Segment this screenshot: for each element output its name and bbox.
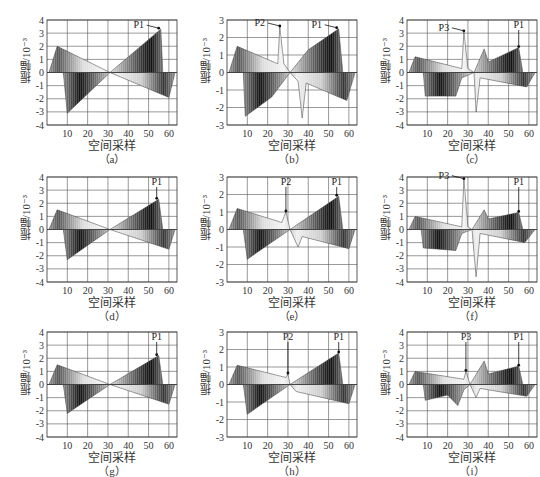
y-tick-label: -2 [36, 250, 44, 261]
y-tick-label: -2 [216, 259, 224, 270]
annotation-p3: P3 [461, 331, 472, 372]
y-tick-label: 0 [399, 224, 404, 235]
y-tick-label: 0 [39, 379, 44, 390]
panel-caption: （h） [222, 462, 362, 477]
y-tick-label: 3 [399, 340, 404, 351]
y-tick-label: -4 [396, 432, 404, 443]
y-tick-label: 3 [39, 185, 44, 196]
panel-caption: （g） [42, 462, 182, 477]
annotation-p1: P1 [331, 176, 342, 197]
waveform-area [409, 180, 523, 230]
y-tick-label: -1 [36, 80, 44, 91]
y-tick-label: 0 [39, 224, 44, 235]
waveform-area [63, 385, 175, 414]
annotation-p3: P3 [439, 22, 466, 33]
svg-text:P1: P1 [513, 331, 524, 342]
svg-text:P2: P2 [283, 331, 294, 342]
y-tick-label: -1 [36, 237, 44, 248]
waveform-area [243, 385, 355, 415]
svg-text:P3: P3 [439, 22, 450, 33]
y-tick-label: 0 [399, 67, 404, 78]
svg-text:P1: P1 [331, 176, 342, 187]
waveform-area [229, 353, 343, 385]
y-axis-label: 振幅/10⁻³ [198, 350, 214, 395]
y-tick-label: -4 [36, 120, 44, 131]
y-tick-label: -1 [216, 397, 224, 408]
y-axis-label: 振幅/10⁻³ [378, 195, 394, 240]
waveform-area [63, 73, 175, 114]
y-tick-label: 2 [219, 189, 224, 200]
chart-panel-g: 43210-1-2-3-4102030405060P1振幅/10⁻³空间采样（g… [0, 312, 180, 470]
y-tick-label: 3 [399, 28, 404, 39]
y-tick-label: 3 [219, 327, 224, 338]
y-tick-label: -1 [396, 392, 404, 403]
y-tick-label: 1 [399, 54, 404, 65]
y-tick-label: 2 [39, 41, 44, 52]
y-tick-label: -2 [36, 93, 44, 104]
svg-text:P3: P3 [439, 170, 450, 181]
y-tick-label: 4 [399, 172, 404, 183]
chart-panel-b: 3210-1-2-3102030405060P2P1振幅/10⁻³空间采样（b） [180, 0, 360, 158]
y-tick-label: -1 [396, 237, 404, 248]
annotation-p1: P1 [151, 331, 162, 356]
y-tick-label: 3 [39, 340, 44, 351]
y-tick-label: 1 [39, 366, 44, 377]
panel-caption: （i） [402, 462, 540, 477]
y-tick-label: -2 [396, 250, 404, 261]
waveform-area [49, 29, 163, 72]
annotation-p1: P1 [133, 19, 160, 30]
svg-text:P1: P1 [151, 176, 162, 187]
y-tick-label: -3 [36, 263, 44, 274]
y-tick-label: -3 [36, 106, 44, 117]
y-axis-label: 振幅/10⁻³ [18, 350, 34, 395]
waveform-area [409, 32, 523, 73]
y-axis-label: 振幅/10⁻³ [18, 195, 34, 240]
y-tick-label: 3 [39, 28, 44, 39]
y-tick-label: 0 [39, 67, 44, 78]
y-tick-label: 2 [219, 32, 224, 43]
annotation-p1: P1 [333, 331, 344, 353]
waveform-area [49, 356, 163, 385]
y-tick-label: 2 [399, 198, 404, 209]
y-tick-label: 2 [39, 353, 44, 364]
y-tick-label: 0 [219, 224, 224, 235]
y-tick-label: 3 [219, 15, 224, 26]
svg-text:P1: P1 [513, 19, 524, 30]
waveform-area [229, 27, 343, 73]
svg-text:P1: P1 [311, 19, 322, 30]
y-tick-label: 4 [39, 15, 44, 26]
svg-text:P3: P3 [461, 331, 472, 342]
y-tick-label: -3 [396, 263, 404, 274]
y-tick-label: -1 [216, 85, 224, 96]
svg-text:P2: P2 [281, 176, 292, 187]
annotation-p1: P1 [513, 19, 524, 48]
waveform-area [421, 230, 535, 277]
y-tick-label: 1 [219, 50, 224, 61]
y-tick-label: 1 [399, 366, 404, 377]
y-tick-label: 2 [399, 353, 404, 364]
y-tick-label: 4 [399, 327, 404, 338]
y-tick-label: 2 [219, 344, 224, 355]
y-tick-label: -3 [396, 418, 404, 429]
y-tick-label: 4 [39, 172, 44, 183]
y-tick-label: -2 [396, 93, 404, 104]
y-tick-label: -2 [396, 405, 404, 416]
y-tick-label: -2 [216, 414, 224, 425]
chart-panel-c: 43210-1-2-3-4102030405060P3P1振幅/10⁻³空间采样… [360, 0, 540, 158]
waveform-area [423, 73, 535, 112]
y-tick-label: -3 [216, 432, 224, 443]
svg-text:P2: P2 [255, 17, 266, 28]
y-tick-label: -4 [396, 277, 404, 288]
chart-panel-e: 3210-1-2-3102030405060P2P1振幅/10⁻³空间采样（e） [180, 157, 360, 315]
y-tick-label: -4 [36, 277, 44, 288]
chart-panel-i: 43210-1-2-3-4102030405060P3P1振幅/10⁻³空间采样… [360, 312, 540, 470]
y-axis-label: 振幅/10⁻³ [378, 350, 394, 395]
y-tick-label: -3 [216, 277, 224, 288]
svg-text:P1: P1 [151, 331, 162, 342]
y-tick-label: 4 [39, 327, 44, 338]
svg-text:P1: P1 [333, 331, 344, 342]
y-tick-label: 1 [399, 211, 404, 222]
y-tick-label: 1 [219, 362, 224, 373]
svg-text:P1: P1 [133, 19, 144, 30]
y-tick-label: 1 [39, 211, 44, 222]
